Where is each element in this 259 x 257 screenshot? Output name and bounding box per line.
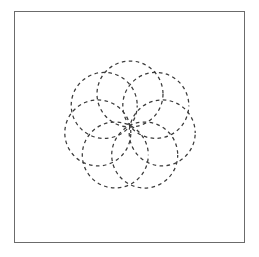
figure-frame-border [14,11,245,243]
figure-canvas [0,0,259,257]
